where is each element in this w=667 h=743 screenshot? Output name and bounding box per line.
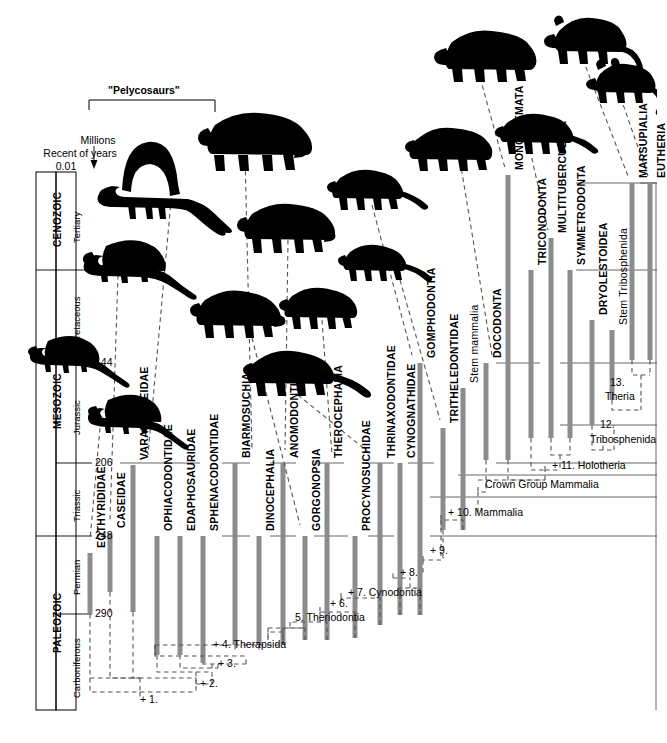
clade-node-label: + 8. [400,566,418,578]
timescale-tick-value: 290 [95,607,113,619]
clade-node-label: 13. [610,376,625,388]
taxon-label: MULTITUBERCULATA [556,121,568,233]
dinocephalian-silhouette [198,113,312,171]
taxon-label: OPHIACODONTIDAE [162,424,174,531]
clade-node-label: + 2. [200,677,218,689]
taxon-label: CYNOGNATHIDAE [405,363,417,458]
morganucodon-silhouette [338,245,432,282]
taxon-label: DOCODONTA [491,288,503,358]
taxon-label: PROCYNOSUCHIDAE [360,420,372,531]
timescale-period-label: Triassic [71,490,82,522]
taxon-label: CASEIDAE [115,472,127,528]
timescale-column [36,146,98,710]
clade-node-label: Theria [605,390,635,402]
taxon-label: ANOMODONTIA [288,375,300,458]
timescale-period-label: Permian [71,559,82,594]
clade-node-label: + 3. [218,657,236,669]
pelycosaurs-label: "Pelycosaurs" [108,84,180,96]
recent-value: 0.01 [40,160,92,172]
cynodont-silhouette [243,351,371,398]
clade-node-label: + 4. Therapsida [213,638,286,650]
multituberculate-silhouette [495,114,598,154]
taxon-label: EOTHYRIDIDAE [95,466,107,548]
timescale-tick-value: 144 [95,356,113,368]
clade-node-label: + 10. Mammalia [448,506,523,518]
timescale-era-label: MESOZOIC [52,374,63,430]
timescale-period-label: Cretaceous [71,296,82,345]
anomodont-silhouette [237,204,336,253]
clade-node-label: + 6. [330,597,348,609]
taxon-label: MARSUPIALIA [637,103,649,178]
axis-caption-line1: Millions [66,134,130,146]
timescale-era-label: PALEOZOIC [52,592,63,652]
clade-node-label: 5. Theriodontia [295,611,365,623]
taxon-label: SYMMETRODONTA [575,165,587,265]
monotreme-silhouette [434,30,536,82]
timescale-tick-value: 65 [95,263,107,275]
docodont-silhouette [405,128,492,171]
taxon-label: SPHENACODONTIDAE [208,413,220,531]
clade-node-label: Crown Group Mammalia [485,478,599,490]
pelycosaurs-bracket [89,100,215,112]
taxon-label: Stem Tribosphenida [617,228,629,325]
timescale-era-label: CENOZOIC [52,192,63,247]
taxon-label: TRITHELEDONTIDAE [448,314,460,423]
clade-node-label: + 9. [430,544,448,556]
taxon-label: THRINAXODONTIDAE [385,345,397,458]
timescale-period-label: Tertiary [71,212,82,243]
taxon-label: BIARMOSUCHIA [240,373,252,458]
tritylodont-silhouette [327,170,428,210]
timescale-period-label: Carboniferous [71,639,82,699]
taxon-label: TRICONODONTA [536,178,548,265]
taxon-label: DRYOLESTOIDEA [597,223,609,315]
gorgonopsian-silhouette [190,290,286,338]
clade-node-label: + 11. Holotheria [552,459,626,471]
taxon-label: MONOTREMATA [513,85,525,170]
taxon-label: VARANOPSEIDAE [138,367,150,460]
clade-node-label: + 7. Cynodontia [348,586,422,598]
taxon-label: GOMPHODONTIA [425,268,437,358]
clade-node-label: 12. [600,418,615,430]
taxon-label: THEROCEPHALIA [332,365,344,458]
clade-node-label: Tribosphenida [590,433,656,445]
taxon-label: DINOCEPHALIA [264,449,276,531]
taxon-label: EDAPHOSAURIDAE [185,428,197,531]
taxon-label: GORGONOPSIA [310,448,322,531]
therocephalian-silhouette [279,288,357,329]
clade-node-label: + 1. [140,693,158,705]
timescale-period-label: Jurassic [71,401,82,436]
taxon-label: Stem mammalia [468,305,480,383]
recent-label: Recent [30,147,90,159]
taxon-label: EUTHERIA [655,123,667,178]
